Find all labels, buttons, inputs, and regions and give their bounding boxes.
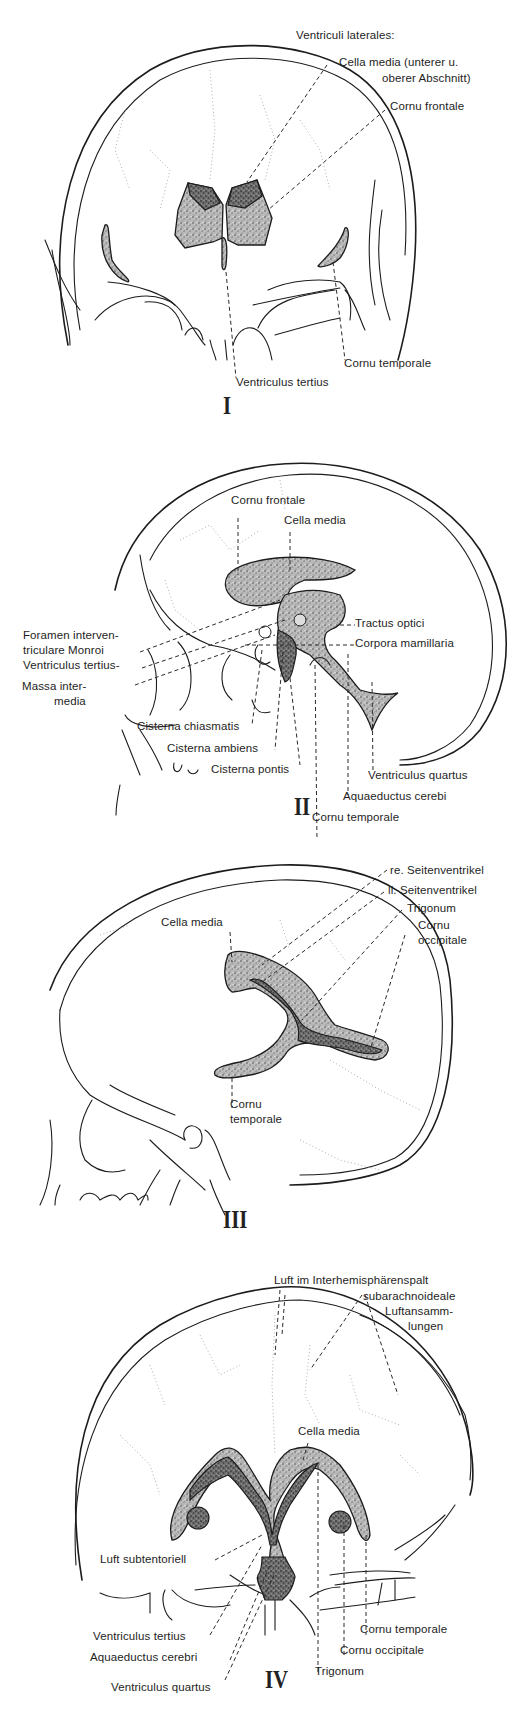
label-cisterna-ambiens: Cisterna ambiens: [167, 742, 258, 755]
panel-ii: Cornu frontale Cella media Foramen inter…: [0, 420, 519, 840]
label-cornu-temporale: Cornu temporale: [312, 811, 399, 824]
label-cornu-temporale-line1: Cornu: [230, 1098, 262, 1111]
label-massa-line2: media: [54, 695, 86, 708]
panel-i: Ventriculi laterales: Cella media (unter…: [0, 0, 519, 420]
label-cornu-frontale: Cornu frontale: [231, 494, 305, 507]
mandible-fragment-icon: [170, 761, 200, 777]
label-cornu-occipitale-line1: Cornu: [418, 919, 450, 932]
label-cisterna-pontis: Cisterna pontis: [211, 763, 289, 776]
label-lungen: lungen: [408, 1320, 443, 1333]
label-cisterna-chiasmatis: Cisterna chiasmatis: [137, 720, 239, 733]
panel-iii: re. Seitenventrikel li. Seitenventrikel …: [0, 840, 519, 1235]
label-ventriculus-quartus: Ventriculus quartus: [111, 1681, 211, 1694]
label-cella-media-line1: Cella media (unterer u.: [339, 56, 458, 69]
label-aquaeductus: Aquaeductus cerebi: [343, 790, 446, 803]
label-massa-line1: Massa inter-: [22, 680, 86, 693]
label-corpora-mamillaria: Corpora mamillaria: [355, 637, 454, 650]
label-cornu-temporale: Cornu temporale: [360, 1623, 447, 1636]
label-trigonum: Trigonum: [407, 902, 456, 915]
left-cornu-occipitale: [187, 1507, 209, 1529]
label-foramen-line1: Foramen interven-: [23, 629, 119, 642]
panel-numeral-ii: II: [294, 794, 310, 820]
label-ventriculus-tertius: Ventriculus tertius: [236, 376, 329, 389]
label-ventriculi-laterales: Ventriculi laterales:: [296, 29, 395, 42]
panel-numeral-iv: IV: [265, 1667, 288, 1693]
label-aquaeductus-cerebri: Aquaeductus cerebri: [90, 1651, 197, 1664]
left-temporal-horn: [102, 225, 129, 282]
panel-numeral-iii: III: [223, 1207, 247, 1233]
label-luft-subtentoriell: Luft subtentoriell: [100, 1553, 186, 1566]
panel-iii-drawing: [0, 840, 519, 1235]
label-ventriculus-quartus: Ventriculus quartus: [368, 769, 468, 782]
label-cella-media: Cella media: [298, 1425, 360, 1438]
label-ventriculus-tertius: Ventriculus tertius: [93, 1630, 186, 1643]
third-ventricle: [222, 238, 227, 270]
label-cornu-temporale: Cornu temporale: [344, 357, 431, 370]
label-cornu-occipitale: Cornu occipitale: [340, 1644, 424, 1657]
label-cornu-frontale: Cornu frontale: [390, 100, 464, 113]
label-foramen-line2: triculare Monroi: [23, 644, 104, 657]
label-luftansamm: Luftansamm-: [385, 1305, 453, 1318]
label-cella-media: Cella media: [161, 916, 223, 929]
label-luft-interhemisphaerenspalt: Luft im Interhemisphärenspalt: [274, 1274, 428, 1287]
right-temporal-horn: [318, 228, 348, 267]
label-tractus-optici: Tractus optici: [355, 617, 424, 630]
right-cornu-occipitale: [329, 1511, 351, 1533]
label-subarachnoideale: subarachnoideale: [363, 1290, 455, 1303]
label-cella-media: Cella media: [284, 514, 346, 527]
label-ventriculus-tertius: Ventriculus tertius-: [23, 659, 120, 672]
fourth-ventricle: [257, 1557, 295, 1600]
lateral-ventricle-side: [215, 951, 389, 1078]
label-li-seitenventrikel: li. Seitenventrikel: [388, 884, 477, 897]
label-re-seitenventrikel: re. Seitenventrikel: [390, 864, 484, 877]
third-fourth-ventricle-complex: [278, 590, 398, 730]
panel-iv: Luft im Interhemisphärenspalt subarachno…: [0, 1235, 519, 1713]
label-cornu-occipitale-line2: occipitale: [418, 934, 467, 947]
label-cella-media-line2: oberer Abschnitt): [382, 72, 471, 85]
label-trigonum: Trigonum: [315, 1665, 364, 1678]
label-cornu-temporale-line2: temporale: [230, 1113, 282, 1126]
panel-numeral-i: I: [223, 393, 231, 419]
